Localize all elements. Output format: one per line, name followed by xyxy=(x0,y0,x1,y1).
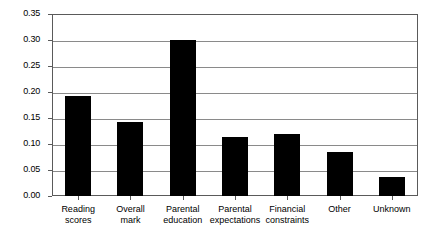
bar xyxy=(222,137,248,196)
x-tick-mark xyxy=(287,196,288,200)
bar xyxy=(379,177,405,196)
bar-chart-figure: 0.350.300.250.200.150.100.050.00 Reading… xyxy=(0,0,429,238)
x-axis: Reading scoresOverall markParental educa… xyxy=(52,196,418,238)
x-tick-label: Unknown xyxy=(362,204,422,215)
bar xyxy=(274,134,300,196)
x-tick-label: Parental education xyxy=(153,204,213,226)
x-tick-label: Reading scores xyxy=(48,204,108,226)
x-tick-mark xyxy=(78,196,79,200)
bar xyxy=(65,96,91,196)
x-tick-mark xyxy=(235,196,236,200)
y-tick-label: 0.00 xyxy=(23,191,40,200)
y-tick-label: 0.10 xyxy=(23,139,40,148)
x-tick-mark xyxy=(183,196,184,200)
x-tick-label: Other xyxy=(309,204,369,215)
x-tick-mark xyxy=(130,196,131,200)
bar xyxy=(117,122,143,196)
x-tick-label: Overall mark xyxy=(100,204,160,226)
y-axis: 0.350.300.250.200.150.100.050.00 xyxy=(0,0,48,238)
x-tick-label: Parental expectations xyxy=(205,204,265,226)
y-tick-label: 0.25 xyxy=(23,61,40,70)
y-tick-label: 0.35 xyxy=(23,9,40,18)
bar xyxy=(170,40,196,196)
bar xyxy=(327,152,353,196)
x-tick-mark xyxy=(392,196,393,200)
x-tick-mark xyxy=(340,196,341,200)
y-tick-label: 0.20 xyxy=(23,87,40,96)
y-tick-label: 0.05 xyxy=(23,165,40,174)
y-tick-label: 0.30 xyxy=(23,35,40,44)
y-tick-label: 0.15 xyxy=(23,113,40,122)
x-tick-label: Financial constraints xyxy=(257,204,317,226)
bars-layer xyxy=(52,14,418,196)
